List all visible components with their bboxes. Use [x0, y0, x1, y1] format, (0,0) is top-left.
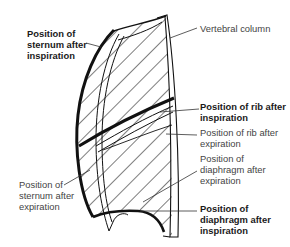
- label-vertebral-column: Vertebral column: [200, 23, 270, 34]
- label-rib-after-expiration: Position of rib after expiration: [200, 127, 278, 149]
- label-line: inspiration: [200, 225, 271, 236]
- label-line: inspiration: [200, 112, 286, 123]
- label-line: expiration: [200, 175, 266, 186]
- label-sternum-after-inspiration: Position of sternum after inspiration: [27, 28, 87, 61]
- label-diaphragm-after-inspiration: Position of diaphragm after inspiration: [200, 203, 271, 236]
- label-diaphragm-after-expiration: Position of diaphragm after expiration: [200, 153, 266, 186]
- label-line: Position of: [200, 203, 271, 214]
- label-line: diaphragm after: [200, 214, 271, 225]
- label-line: Position of: [19, 179, 74, 190]
- label-line: Position of: [27, 28, 87, 39]
- label-line: expiration: [19, 201, 74, 212]
- label-line: Position of: [200, 153, 266, 164]
- label-rib-after-inspiration: Position of rib after inspiration: [200, 101, 286, 123]
- label-line: inspiration: [27, 50, 87, 61]
- label-sternum-after-expiration: Position of sternum after expiration: [19, 179, 74, 212]
- label-line: expiration: [200, 138, 278, 149]
- label-line: diaphragm after: [200, 164, 266, 175]
- label-line: sternum after: [19, 190, 74, 201]
- label-line: Position of rib after: [200, 101, 286, 112]
- label-line: Position of rib after: [200, 127, 278, 138]
- label-line: Vertebral column: [200, 23, 270, 34]
- label-line: sternum after: [27, 39, 87, 50]
